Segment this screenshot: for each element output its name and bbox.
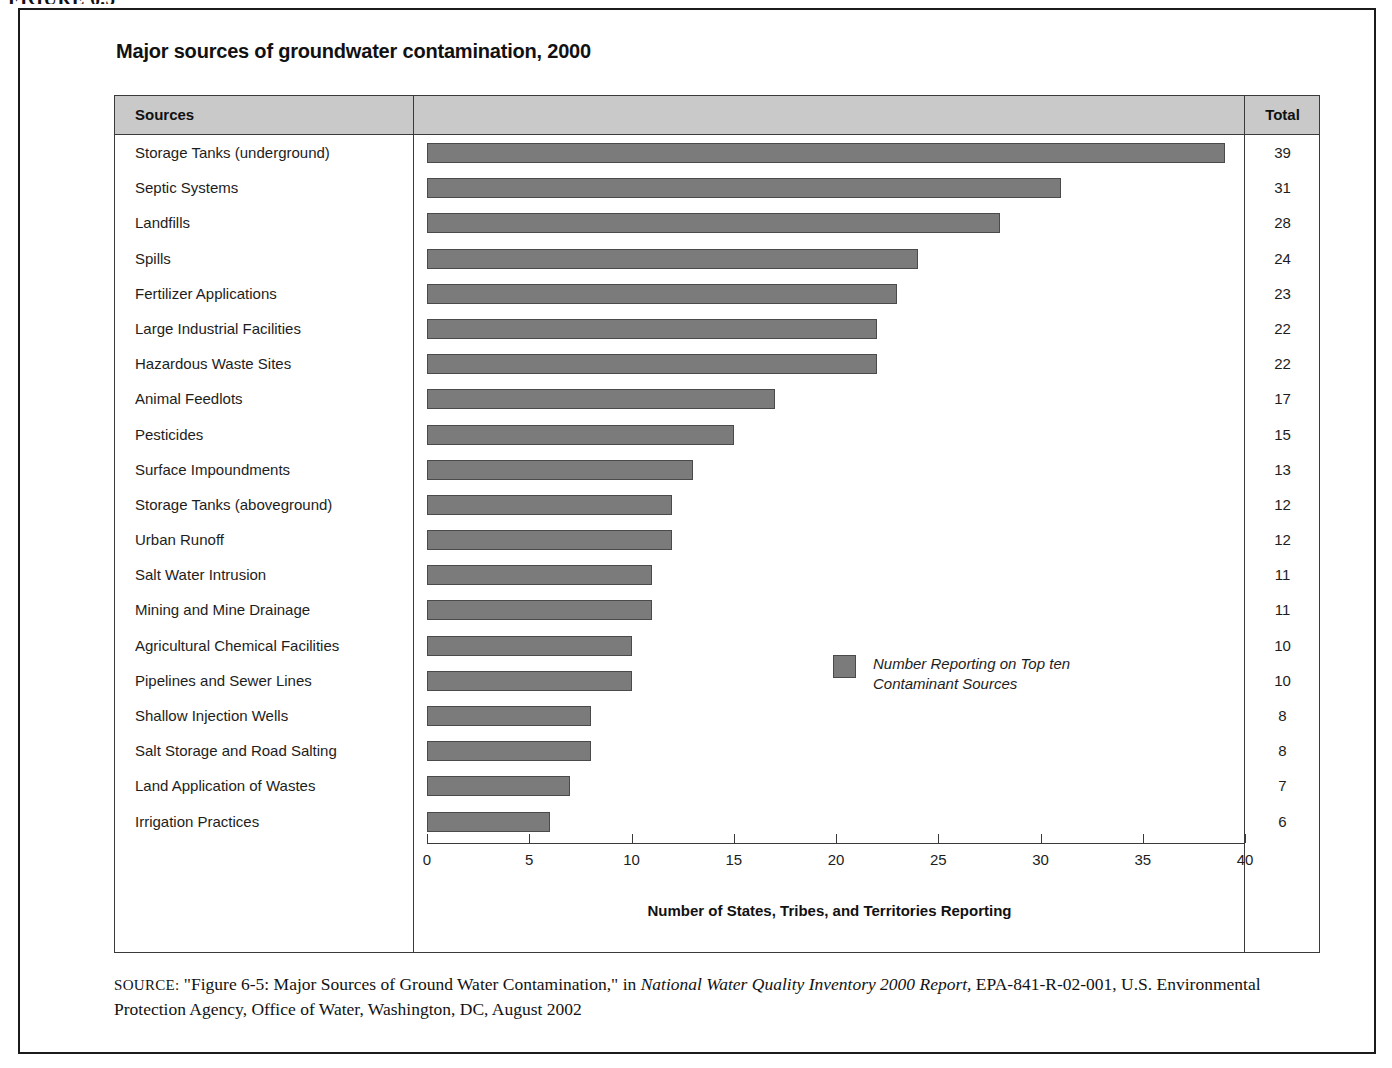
- row-total-value: 23: [1246, 285, 1319, 302]
- bar: [427, 284, 897, 304]
- x-axis-tick-label: 10: [623, 851, 640, 868]
- x-axis-tick: [836, 834, 837, 843]
- table-row: Fertilizer Applications23: [115, 276, 1319, 311]
- legend-swatch-icon: [833, 655, 856, 678]
- x-axis-tick: [1143, 834, 1144, 843]
- bar: [427, 143, 1225, 163]
- source-note-part1: "Figure 6-5: Major Sources of Ground Wat…: [179, 974, 640, 994]
- figure-outer-frame: Major sources of groundwater contaminati…: [18, 8, 1376, 1054]
- x-axis-tick-label: 35: [1134, 851, 1151, 868]
- bar: [427, 636, 632, 656]
- bar-track: [427, 812, 1245, 832]
- source-note-prefix: SOURCE:: [114, 977, 179, 993]
- x-axis-title: Number of States, Tribes, and Territorie…: [415, 902, 1244, 919]
- table-row: Surface Impoundments13: [115, 452, 1319, 487]
- row-label: Animal Feedlots: [135, 390, 243, 407]
- table-row: Mining and Mine Drainage11: [115, 592, 1319, 627]
- x-axis-tick-label: 25: [930, 851, 947, 868]
- page-title: Major sources of groundwater contaminati…: [116, 40, 591, 63]
- row-label: Agricultural Chemical Facilities: [135, 637, 339, 654]
- table-row: Urban Runoff12: [115, 522, 1319, 557]
- bar: [427, 460, 693, 480]
- bar: [427, 425, 734, 445]
- source-note: SOURCE: "Figure 6-5: Major Sources of Gr…: [114, 972, 1330, 1023]
- row-label: Septic Systems: [135, 179, 238, 196]
- row-total-value: 10: [1246, 637, 1319, 654]
- row-total-value: 24: [1246, 250, 1319, 267]
- table-row: Pesticides15: [115, 417, 1319, 452]
- figure-label: FIGURE 6.5: [8, 0, 115, 4]
- bar: [427, 178, 1061, 198]
- bar-track: [427, 776, 1245, 796]
- bar: [427, 354, 877, 374]
- x-axis-tick: [632, 834, 633, 843]
- table-row: Storage Tanks (underground)39: [115, 135, 1319, 170]
- bar-track: [427, 460, 1245, 480]
- table-row: Storage Tanks (aboveground)12: [115, 487, 1319, 522]
- row-total-value: 22: [1246, 355, 1319, 372]
- row-total-value: 22: [1246, 320, 1319, 337]
- bar-track: [427, 530, 1245, 550]
- row-label: Salt Storage and Road Salting: [135, 742, 337, 759]
- bar-track: [427, 143, 1245, 163]
- bar-track: [427, 741, 1245, 761]
- bar-track: [427, 495, 1245, 515]
- bar: [427, 530, 672, 550]
- table-header-row: Sources Total: [115, 96, 1319, 135]
- row-label: Fertilizer Applications: [135, 285, 277, 302]
- row-total-value: 15: [1246, 426, 1319, 443]
- x-axis-tick: [427, 834, 428, 843]
- bar-track: [427, 600, 1245, 620]
- chart-rows: Storage Tanks (underground)39Septic Syst…: [115, 135, 1319, 839]
- source-note-publication-title: National Water Quality Inventory 2000 Re…: [641, 974, 972, 994]
- x-axis-tick: [734, 834, 735, 843]
- row-label: Irrigation Practices: [135, 813, 259, 830]
- row-total-value: 13: [1246, 461, 1319, 478]
- row-total-value: 12: [1246, 531, 1319, 548]
- table-row: Landfills28: [115, 205, 1319, 240]
- row-label: Storage Tanks (aboveground): [135, 496, 332, 513]
- row-label: Hazardous Waste Sites: [135, 355, 291, 372]
- row-label: Land Application of Wastes: [135, 777, 315, 794]
- x-axis-tick-label: 0: [423, 851, 431, 868]
- bar: [427, 812, 550, 832]
- chart-table-block: Sources Total Storage Tanks (underground…: [114, 95, 1320, 953]
- table-row: Large Industrial Facilities22: [115, 311, 1319, 346]
- table-row: Pipelines and Sewer Lines10: [115, 663, 1319, 698]
- bar: [427, 600, 652, 620]
- row-total-value: 7: [1246, 777, 1319, 794]
- row-total-value: 6: [1246, 813, 1319, 830]
- row-total-value: 39: [1246, 144, 1319, 161]
- row-total-value: 28: [1246, 214, 1319, 231]
- row-label: Landfills: [135, 214, 190, 231]
- row-label: Salt Water Intrusion: [135, 566, 266, 583]
- bar: [427, 776, 570, 796]
- row-label: Urban Runoff: [135, 531, 224, 548]
- x-axis-tick: [1245, 834, 1246, 843]
- bar-track: [427, 249, 1245, 269]
- row-label: Mining and Mine Drainage: [135, 601, 310, 618]
- row-total-value: 12: [1246, 496, 1319, 513]
- x-axis-tick-label: 15: [725, 851, 742, 868]
- table-row: Agricultural Chemical Facilities10: [115, 628, 1319, 663]
- x-axis-tick: [1041, 834, 1042, 843]
- bar: [427, 319, 877, 339]
- bar-track: [427, 565, 1245, 585]
- row-total-value: 31: [1246, 179, 1319, 196]
- row-total-value: 11: [1246, 566, 1319, 583]
- bar: [427, 706, 591, 726]
- bar: [427, 495, 672, 515]
- bar: [427, 249, 918, 269]
- x-axis-tick-label: 5: [525, 851, 533, 868]
- legend-label: Number Reporting on Top ten Contaminant …: [873, 654, 1070, 695]
- row-label: Spills: [135, 250, 171, 267]
- x-axis-tick: [938, 834, 939, 843]
- table-row: Shallow Injection Wells8: [115, 698, 1319, 733]
- row-total-value: 8: [1246, 742, 1319, 759]
- x-axis-tick: [529, 834, 530, 843]
- bar: [427, 213, 1000, 233]
- table-row: Salt Water Intrusion11: [115, 557, 1319, 592]
- table-row: Salt Storage and Road Salting8: [115, 733, 1319, 768]
- bar-track: [427, 425, 1245, 445]
- table-row: Hazardous Waste Sites22: [115, 346, 1319, 381]
